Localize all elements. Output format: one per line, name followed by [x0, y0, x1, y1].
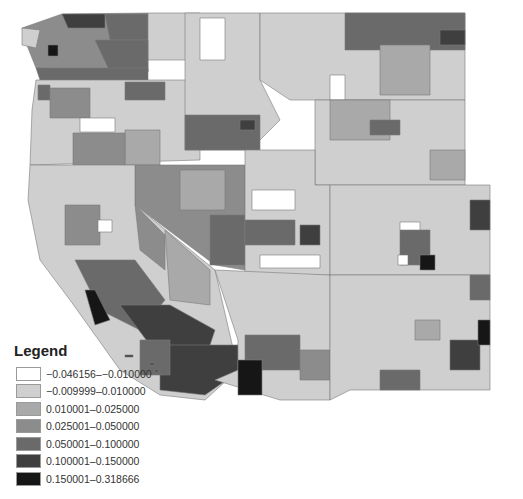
region-colorado: [330, 185, 490, 275]
legend-item: 0.010001–0.025000: [16, 400, 200, 418]
legend-label: 0.050001–0.100000: [46, 438, 139, 450]
legend-label: 0.150001–0.318666: [46, 473, 139, 485]
legend-item: 0.150001–0.318666: [16, 470, 200, 488]
region-montana: [260, 13, 465, 100]
legend-item: 0.025001–0.050000: [16, 418, 200, 436]
region-arizona: [215, 270, 330, 400]
legend-swatch: [16, 384, 41, 398]
legend-label: −0.046156–−0.010000: [46, 368, 152, 380]
legend-label: 0.025001–0.050000: [46, 420, 139, 432]
legend-swatch: [16, 402, 41, 416]
legend-label: −0.009999–0.010000: [46, 385, 146, 397]
legend-swatch: [16, 454, 41, 468]
legend-swatch: [16, 437, 41, 451]
legend-item: −0.046156–−0.010000: [16, 365, 200, 383]
legend-item: 0.050001–0.100000: [16, 435, 200, 453]
region-new-mexico: [330, 275, 490, 400]
region-oregon: [30, 80, 200, 168]
legend-label: 0.100001–0.150000: [46, 455, 139, 467]
legend-swatch: [16, 367, 41, 381]
legend-swatch: [16, 419, 41, 433]
region-wyoming: [315, 100, 465, 185]
legend-label: 0.010001–0.025000: [46, 403, 139, 415]
legend-swatch: [16, 472, 41, 486]
legend-item: 0.100001–0.150000: [16, 453, 200, 471]
legend-title: Legend: [14, 342, 200, 359]
legend-item: −0.009999–0.010000: [16, 383, 200, 401]
map-legend: Legend −0.046156–−0.010000 −0.009999–0.0…: [10, 342, 200, 488]
